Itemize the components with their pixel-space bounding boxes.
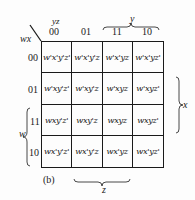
kmap-cell: w'xy'z' (42, 73, 72, 104)
row-header-00: 00 (28, 52, 38, 63)
kmap-cell: wx'yz' (133, 136, 163, 167)
kmap-cell: wx'y'z (72, 136, 102, 167)
col-header-10: 10 (142, 26, 152, 37)
kmap-cell: w'x'yz' (133, 42, 163, 73)
kmap-cell: w'x'y'z' (42, 42, 72, 73)
brace-label-y: y (130, 13, 134, 24)
kmap-cell: w'xyz (103, 73, 133, 104)
row-header-11: 11 (30, 116, 40, 127)
col-header-01: 01 (81, 26, 91, 37)
col-header-11: 11 (112, 26, 122, 37)
corner-diagonal (30, 25, 41, 41)
kmap-cell: wxy'z' (42, 105, 72, 136)
kmap-cell: wx'y'z' (42, 136, 72, 167)
col-header-00: 00 (49, 26, 59, 37)
brace-label-z: z (102, 184, 106, 195)
kmap-grid: w'x'y'z' w'x'y'z w'x'yz w'x'yz' w'xy'z' … (41, 41, 164, 168)
kmap-cell: wxy'z (72, 105, 102, 136)
brace-label-x: x (183, 99, 187, 110)
brace-right-x (176, 77, 183, 133)
kmap-cell: w'x'yz (103, 42, 133, 73)
col-var-label: yz (52, 16, 60, 26)
brace-label-w: w (19, 128, 26, 139)
kmap-cell: wxyz (103, 105, 133, 136)
kmap-cell: wx'yz (103, 136, 133, 167)
kmap-cell: wxyz' (133, 105, 163, 136)
kmap-cell: w'xy'z (72, 73, 102, 104)
row-var-label: wx (20, 33, 31, 44)
kmap-cell: w'x'y'z (72, 42, 102, 73)
figure-caption: (b) (43, 174, 55, 185)
kmap-cell: w'xyz' (133, 73, 163, 104)
row-header-10: 10 (29, 147, 39, 158)
row-header-01: 01 (28, 84, 38, 95)
